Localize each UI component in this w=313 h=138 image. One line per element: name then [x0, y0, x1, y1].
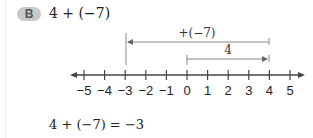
tick-label: 0: [183, 83, 190, 98]
number-line-diagram: +(−7) 4 −5−4−3−2−1012345: [0, 0, 313, 138]
tick-label: 4: [266, 83, 273, 98]
arrow-label-4: 4: [224, 43, 232, 57]
tick-label: 1: [204, 83, 211, 98]
tick-label: −1: [159, 83, 174, 98]
arrow-label-neg7: +(−7): [178, 26, 215, 40]
tick-label: 5: [286, 83, 293, 98]
tick-label: −4: [97, 83, 112, 98]
tick-label: −3: [118, 83, 133, 98]
tick-label: 3: [245, 83, 252, 98]
tick-label: −5: [77, 83, 92, 98]
tick-label: 2: [225, 83, 232, 98]
result-equation: 4 + (−7) = −3: [49, 117, 144, 132]
tick-label: −2: [138, 83, 153, 98]
number-line-axis: −5−4−3−2−1012345: [70, 70, 305, 98]
arrow-plus-4: 4: [187, 43, 269, 65]
